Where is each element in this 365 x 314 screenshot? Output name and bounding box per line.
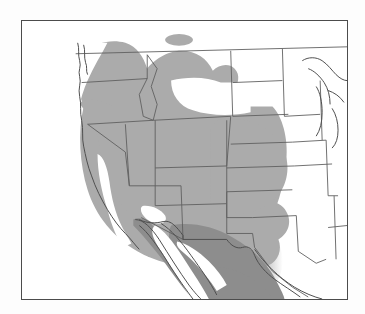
range-map xyxy=(22,21,347,299)
cutoff-caption-text: · · · · · xyxy=(0,0,365,7)
figure-frame xyxy=(21,20,348,300)
range-patch-saskatchewan xyxy=(165,34,193,46)
scanned-page: · · · · · xyxy=(0,0,365,314)
